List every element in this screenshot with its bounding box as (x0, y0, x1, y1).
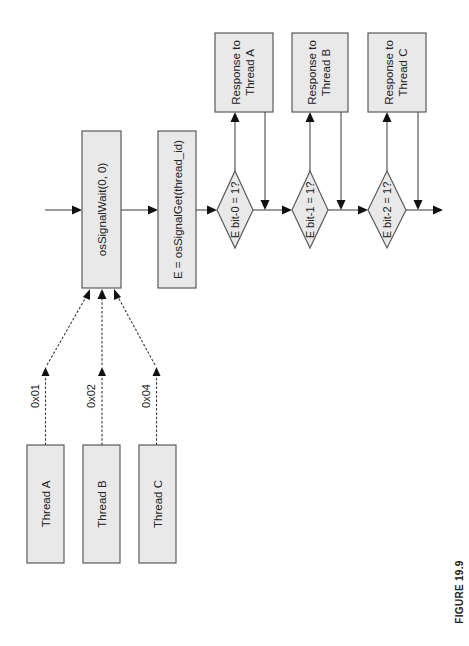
return-arrow-b (337, 112, 346, 210)
decision-bit-2-label: E bit-2 = 1? (381, 182, 393, 239)
decision-bit-1: E bit-1 = 1? (292, 171, 328, 248)
signal-get-label: E = osSignalGet(thread_id) (172, 140, 184, 279)
figure-caption: FIGURE 19.9 (454, 560, 465, 623)
response-c-line2: Thread C (397, 49, 409, 97)
signal-wait-label: osSignalWait(0, 0) (96, 163, 108, 257)
thread-a-label: Thread A (40, 480, 52, 527)
return-arrow-a (261, 112, 270, 210)
exit-arrow (406, 206, 443, 215)
thread-c-label: Thread C (152, 480, 164, 528)
signal-0x02-label: 0x02 (85, 384, 97, 408)
response-b-line1: Response to (306, 40, 318, 105)
decision-bit-1-label: E bit-1 = 1? (304, 182, 316, 239)
thread-c-signal: 0x04 (114, 289, 161, 445)
response-a-line1: Response to (230, 40, 242, 105)
wait-to-get-arrow (121, 206, 158, 215)
decision-0-to-1-arrow (253, 206, 292, 215)
entry-arrow (45, 206, 82, 215)
flowchart-diagram: osSignalWait(0, 0) E = osSignalGet(threa… (0, 0, 469, 646)
yes-arrow-c (383, 112, 392, 171)
response-b-line2: Thread B (320, 49, 332, 97)
return-arrow-c (414, 112, 423, 210)
thread-a-box: Thread A (27, 445, 64, 563)
decision-bit-2: E bit-2 = 1? (368, 171, 406, 248)
signal-0x01-label: 0x01 (29, 384, 41, 408)
thread-b-signal: 0x02 (85, 289, 107, 445)
response-c-box: Response to Thread C (368, 33, 426, 112)
signal-wait-box: osSignalWait(0, 0) (82, 131, 121, 288)
thread-c-box: Thread C (139, 445, 176, 563)
signal-0x04-label: 0x04 (140, 384, 152, 408)
get-to-decision-arrow (196, 206, 217, 215)
yes-arrow-a (231, 112, 240, 171)
thread-b-box: Thread B (83, 445, 120, 563)
thread-b-label: Thread B (96, 480, 108, 528)
thread-a-signal: 0x01 (29, 289, 90, 445)
response-a-line2: Thread A (244, 49, 256, 96)
response-b-box: Response to Thread B (292, 33, 348, 112)
decision-bit-0-label: E bit-0 = 1? (229, 182, 241, 239)
response-a-box: Response to Thread A (215, 33, 273, 112)
decision-bit-0: E bit-0 = 1? (217, 171, 253, 248)
decision-1-to-2-arrow (328, 206, 368, 215)
response-c-line1: Response to (383, 40, 395, 105)
yes-arrow-b (306, 112, 315, 171)
signal-get-box: E = osSignalGet(thread_id) (158, 131, 196, 288)
